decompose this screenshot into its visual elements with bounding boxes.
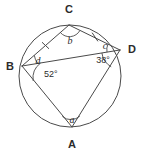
vertex-label-a: A [68,138,76,150]
angle-label-b-52: 52° [44,69,58,79]
chord-c-d [69,25,120,50]
vertex-label-b: B [6,60,14,72]
circle-geometry-figure: C D B A 52° 38° a b c d [0,0,143,155]
geometry-diagram: C D B A 52° 38° a b c d [0,0,143,155]
angle-label-d-38: 38° [96,55,110,65]
vertex-label-d: D [128,43,136,55]
angle-label-d-var: d [36,55,42,66]
angle-label-c: c [103,40,108,51]
angle-label-b-var: b [68,35,73,46]
vertex-label-c: C [65,3,73,15]
angle-label-a: a [70,114,75,125]
